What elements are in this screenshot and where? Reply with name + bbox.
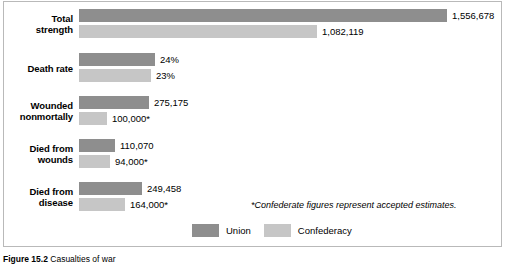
category-label-line: Died from — [30, 143, 73, 154]
bar-value-label: 1,556,678 — [452, 9, 494, 22]
bar-group: Died fromwounds110,07094,000* — [4, 137, 501, 171]
bar-value-label: 94,000* — [115, 155, 148, 168]
category-label-line: disease — [39, 197, 73, 208]
bar-union — [79, 139, 115, 152]
category-label-line: nonmortally — [20, 111, 73, 122]
bar-row-confederacy: 1,082,119 — [79, 25, 364, 38]
bar-union — [79, 9, 447, 22]
bar-row-confederacy: 23% — [79, 69, 175, 82]
bar-confederacy — [79, 25, 317, 38]
category-label: Totalstrength — [4, 7, 73, 41]
bar-confederacy — [79, 198, 125, 211]
figure-caption-text: Casualties of war — [50, 254, 115, 264]
bar-row-union: 110,070 — [79, 139, 154, 152]
category-label: Died fromdisease — [4, 180, 73, 214]
bar-value-label: 110,070 — [120, 139, 154, 152]
figure-caption: Figure 15.2 Casualties of war — [3, 254, 115, 264]
bar-group: Death rate24%23% — [4, 51, 501, 85]
bar-row-union: 24% — [79, 53, 179, 66]
bar-union — [79, 96, 149, 109]
category-label-line: Died from — [30, 186, 73, 197]
figure-casualties-of-war: Totalstrength1,556,6781,082,119Death rat… — [0, 0, 505, 265]
category-label-line: strength — [36, 24, 73, 35]
bar-group: Woundednonmortally275,175100,000* — [4, 94, 501, 128]
bar-row-union: 1,556,678 — [79, 9, 494, 22]
bar-union — [79, 182, 142, 195]
bar-row-confederacy: 164,000* — [79, 198, 168, 211]
category-label-line: Wounded — [31, 100, 73, 111]
bar-group: Totalstrength1,556,6781,082,119 — [4, 7, 501, 41]
bar-row-confederacy: 94,000* — [79, 155, 148, 168]
bar-value-label: 24% — [160, 53, 179, 66]
chart-legend: Union Confederacy — [192, 224, 352, 237]
legend-swatch-confederacy-icon — [264, 224, 291, 237]
bar-row-union: 249,458 — [79, 182, 181, 195]
category-label: Died fromwounds — [4, 137, 73, 171]
legend-item-union: Union — [192, 224, 251, 237]
bar-row-confederacy: 100,000* — [79, 112, 150, 125]
bar-confederacy — [79, 69, 151, 82]
legend-label-confederacy: Confederacy — [298, 225, 352, 236]
category-label-line: Total — [52, 13, 74, 24]
chart-frame: Totalstrength1,556,6781,082,119Death rat… — [3, 1, 502, 247]
figure-caption-number: Figure 15.2 — [3, 254, 48, 264]
bar-value-label: 275,175 — [154, 96, 188, 109]
category-label: Woundednonmortally — [4, 94, 73, 128]
bar-value-label: 1,082,119 — [322, 25, 364, 38]
bar-confederacy — [79, 112, 107, 125]
bar-union — [79, 53, 155, 66]
chart-footnote: *Confederate figures represent accepted … — [251, 200, 457, 210]
bar-value-label: 23% — [156, 69, 175, 82]
category-label: Death rate — [4, 51, 73, 85]
legend-item-confederacy: Confederacy — [264, 224, 352, 237]
bar-value-label: 100,000* — [112, 112, 150, 125]
bar-confederacy — [79, 155, 110, 168]
legend-swatch-union-icon — [192, 224, 219, 237]
bar-value-label: 249,458 — [147, 182, 181, 195]
bar-value-label: 164,000* — [130, 198, 168, 211]
category-label-line: Death rate — [28, 63, 73, 74]
category-label-line: wounds — [38, 154, 73, 165]
bar-row-union: 275,175 — [79, 96, 188, 109]
legend-label-union: Union — [226, 225, 251, 236]
